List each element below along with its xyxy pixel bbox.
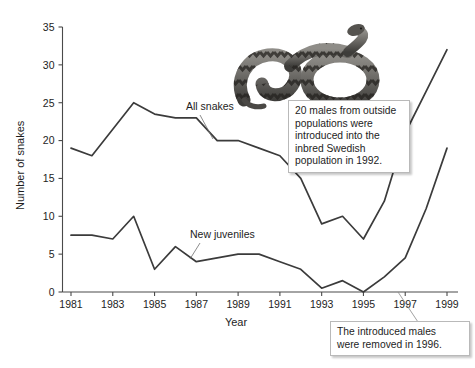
- leader-all-snakes: [200, 115, 213, 139]
- y-tick-label: 25: [43, 97, 55, 109]
- x-axis-ticks: 1981198319851987198919911993199519971999: [59, 292, 459, 310]
- x-axis-title: Year: [225, 316, 248, 328]
- series-label-all-snakes: All snakes: [186, 100, 234, 112]
- y-tick-label: 20: [43, 134, 55, 146]
- callout-introduction: 20 males from outside populations were i…: [288, 100, 410, 173]
- y-axis-ticks: 05101520253035: [43, 21, 63, 298]
- x-tick-label: 1999: [435, 298, 459, 310]
- callout-introduction-line5: population in 1992.: [295, 155, 403, 168]
- series-label-new-juveniles: New juveniles: [190, 228, 255, 240]
- callout-removal-line2: were removed in 1996.: [337, 339, 463, 352]
- y-axis-title: Number of snakes: [14, 120, 26, 210]
- x-tick-label: 1989: [226, 298, 250, 310]
- x-tick-label: 1993: [310, 298, 334, 310]
- x-tick-label: 1995: [352, 298, 376, 310]
- x-tick-label: 1987: [185, 298, 209, 310]
- chart-figure: 05101520253035 1981198319851987198919911…: [0, 0, 475, 368]
- x-tick-label: 1983: [101, 298, 125, 310]
- x-tick-label: 1985: [143, 298, 167, 310]
- y-tick-label: 35: [43, 21, 55, 33]
- adder-snake-photo: [232, 22, 384, 110]
- callout-introduction-line4: inbred Swedish: [295, 143, 403, 156]
- callout-introduction-line1: 20 males from outside: [295, 105, 403, 118]
- x-tick-label: 1991: [268, 298, 292, 310]
- callout-removal-line1: The introduced males: [337, 326, 463, 339]
- callout-removal: The introduced males were removed in 199…: [330, 321, 470, 356]
- y-tick-label: 10: [43, 210, 55, 222]
- x-tick-label: 1981: [59, 298, 83, 310]
- y-tick-label: 5: [49, 248, 55, 260]
- leader-new-juveniles: [190, 243, 200, 259]
- y-tick-label: 0: [49, 286, 55, 298]
- callout-introduction-line2: populations were: [295, 118, 403, 131]
- callout-introduction-line3: introduced into the: [295, 130, 403, 143]
- y-tick-label: 30: [43, 59, 55, 71]
- x-tick-label: 1997: [394, 298, 418, 310]
- y-tick-label: 15: [43, 172, 55, 184]
